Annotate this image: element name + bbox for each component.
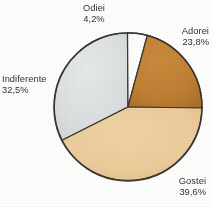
pie-label-odiei-name: Odiei	[0, 3, 188, 14]
pie-label-odiei-value: 4,2%	[0, 14, 188, 25]
pie-label-odiei: Odiei 4,2%	[0, 3, 212, 26]
pie-label-adorei-value: 23,8%	[182, 37, 209, 48]
pie-label-indiferente-name: Indiferente	[2, 74, 46, 85]
pie-label-gostei: Gostei 39,6%	[179, 176, 206, 199]
pie-label-gostei-name: Gostei	[179, 176, 206, 187]
pie-chart-figure: Odiei 4,2% Adorei 23,8% Gostei 39,6% Ind…	[0, 0, 212, 207]
pie-label-adorei: Adorei 23,8%	[182, 26, 209, 49]
pie-label-indiferente-value: 32,5%	[2, 85, 46, 96]
pie-label-adorei-name: Adorei	[182, 26, 209, 37]
pie-label-gostei-value: 39,6%	[179, 187, 206, 198]
pie-label-indiferente: Indiferente 32,5%	[2, 74, 46, 97]
